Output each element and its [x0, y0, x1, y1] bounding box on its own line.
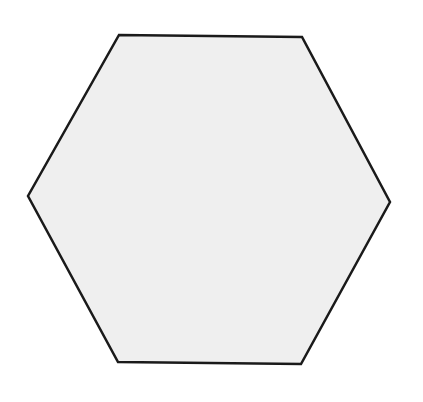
- diagram-canvas: [0, 0, 423, 402]
- hexagon-shape: [28, 35, 390, 364]
- hexagon-diagram: [0, 0, 423, 402]
